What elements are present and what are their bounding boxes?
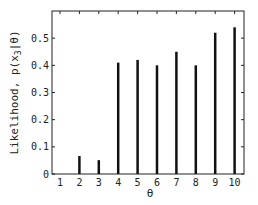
y-tick-label: 0.2	[31, 114, 49, 125]
likelihood-chart: 00.10.20.30.40.512345678910θLikelihood, …	[0, 0, 258, 205]
y-axis-label: Likelihood, p(x3|θ)	[8, 30, 23, 154]
y-tick-label: 0.3	[31, 87, 49, 98]
plot-area: 00.10.20.30.40.512345678910θLikelihood, …	[8, 11, 244, 200]
x-tick-label: 8	[193, 177, 199, 188]
y-tick-label: 0.5	[31, 33, 49, 44]
x-tick-label: 1	[57, 177, 63, 188]
x-tick-label: 9	[212, 177, 218, 188]
y-tick-label: 0.1	[31, 141, 49, 152]
x-axis-label: θ	[147, 187, 154, 200]
x-tick-label: 5	[135, 177, 141, 188]
x-tick-label: 2	[76, 177, 82, 188]
x-tick-label: 3	[96, 177, 102, 188]
y-tick-label: 0.4	[31, 60, 49, 71]
x-tick-label: 10	[229, 177, 241, 188]
x-tick-label: 7	[173, 177, 179, 188]
x-tick-label: 4	[115, 177, 121, 188]
x-tick-label: 6	[154, 177, 160, 188]
y-tick-label: 0	[43, 169, 49, 180]
